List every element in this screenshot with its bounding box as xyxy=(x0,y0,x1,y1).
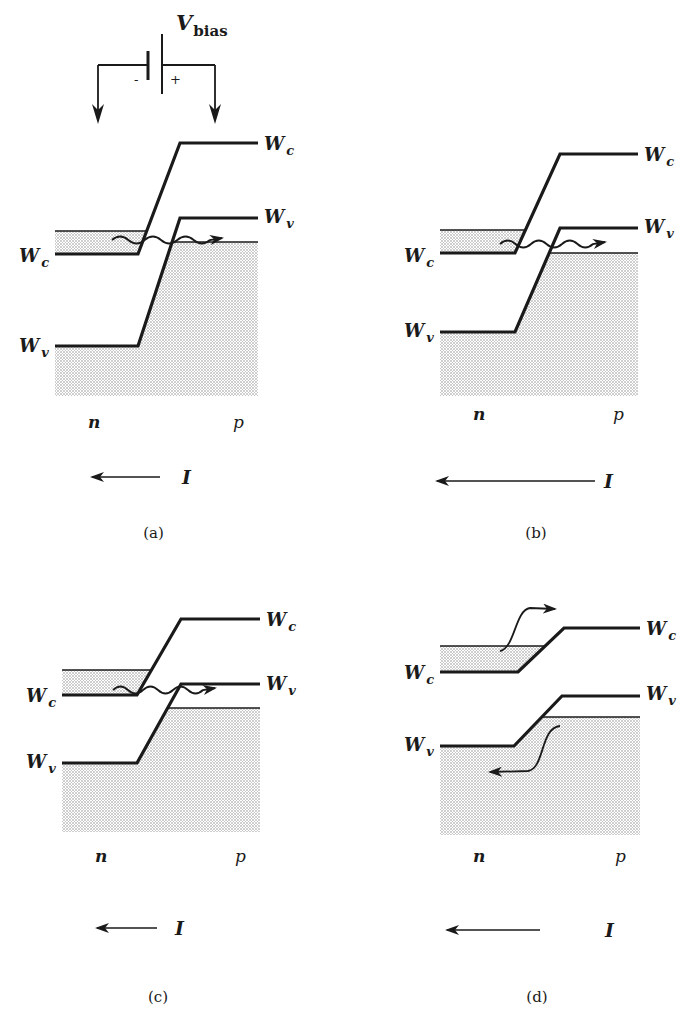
wv-label-p-side: Wv xyxy=(264,206,294,231)
wv-label-p-side: Wv xyxy=(266,673,296,698)
minus-sign: - xyxy=(134,72,138,87)
wc-label-n-side: Wc xyxy=(26,685,56,710)
wv-label-p-side: Wv xyxy=(646,683,676,708)
panel-caption: (c) xyxy=(148,988,168,1006)
wv-label-n-side: Wv xyxy=(404,734,434,759)
wc-label-n-side: Wc xyxy=(19,245,49,270)
current-label: I xyxy=(603,470,614,492)
panel-caption: (d) xyxy=(526,988,547,1006)
wv-label-p-side: Wv xyxy=(644,216,674,241)
n-region-label: n xyxy=(88,412,100,432)
wc-label-p-side: Wc xyxy=(266,609,296,634)
p-region-label: p xyxy=(233,412,244,432)
valence-filled-region xyxy=(440,717,640,835)
current-label: I xyxy=(174,917,185,939)
panel-caption: (a) xyxy=(143,524,164,542)
n-region-label: n xyxy=(473,404,485,424)
p-region-label: p xyxy=(613,404,624,424)
current-label: I xyxy=(604,919,615,941)
plus-sign: + xyxy=(170,72,181,87)
panel-caption: (b) xyxy=(525,524,546,542)
wc-label-n-side: Wc xyxy=(404,245,434,270)
bias-battery: - + Vbias xyxy=(92,10,228,124)
n-region-label: n xyxy=(95,846,107,866)
panel-b: WcWvWcWvnpI(b) xyxy=(404,144,674,542)
wv-label-n-side: Wv xyxy=(19,335,49,360)
wc-label-p-side: Wc xyxy=(644,144,674,169)
valence-filled-region xyxy=(55,242,258,396)
n-region-label: n xyxy=(473,846,485,866)
wc-label-n-side: Wc xyxy=(404,662,434,687)
wc-label-p-side: Wc xyxy=(646,618,676,643)
wc-label-p-side: Wc xyxy=(264,133,294,158)
current-label: I xyxy=(181,466,192,488)
vbias-label: Vbias xyxy=(176,10,228,40)
p-region-label: p xyxy=(235,846,246,866)
panel-d: WcWvWcWvnpI(d) xyxy=(404,608,676,1006)
valence-filled-region xyxy=(62,708,260,832)
wv-label-n-side: Wv xyxy=(26,751,56,776)
panel-a: WcWvWcWvnpI(a) xyxy=(19,133,294,542)
p-region-label: p xyxy=(615,846,626,866)
panel-c: WcWvWcWvnpI(c) xyxy=(26,609,296,1006)
band-diagram-figure: - + Vbias WcWvWcWvnpI(a)WcWvWcWvnpI(b)Wc… xyxy=(0,0,700,1031)
wv-label-n-side: Wv xyxy=(404,320,434,345)
